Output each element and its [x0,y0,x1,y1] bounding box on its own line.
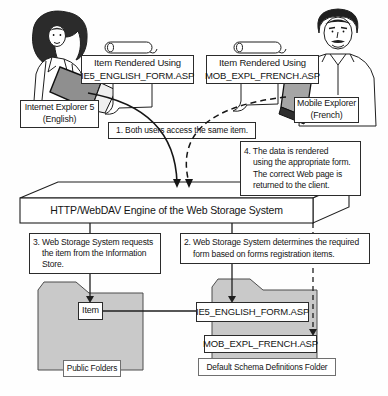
form-filename: IE5_ENGLISH_FORM.ASP [196,306,309,319]
client-name: Mobile Explorer [297,98,356,110]
step-text: Store. [33,259,157,270]
engine-title: HTTP/WebDAV Engine of the Web Storage Sy… [50,204,283,218]
diagram-base-art [0,0,388,396]
step-text: 2. Web Storage System determines the req… [184,237,366,248]
schema-folder-caption: Default Schema Definitions Folder [198,358,336,376]
label-line: Item Rendered Using [94,57,181,70]
man-eye-left [332,31,334,33]
english-form-box: IE5_ENGLISH_FORM.ASP [196,302,309,322]
folder-caption: Public Folders [67,363,117,374]
form-filename: MOB_EXPL_FRENCH.ASP [205,70,320,83]
scroll-roll-end [237,43,243,51]
public-folders-caption: Public Folders [63,360,121,377]
man-eye-right [343,31,345,33]
step-text: 3. Web Storage System requests [33,237,157,248]
woman-eye-left [53,34,55,36]
item-label: Item [82,305,99,317]
french-form-box: MOB_EXPL_FRENCH.ASP [204,335,317,353]
client-language: (English) [43,114,76,126]
step-text: 1. Both users access the same item. [116,125,248,136]
label-line: Item Rendered Using [219,57,306,70]
step-text: 4. The data is rendered [244,146,357,157]
step-text: the item from the Information [33,248,157,259]
step-text: returned to the client. [244,180,357,191]
step-4-callout: 4. The data is rendered using the approp… [240,141,361,196]
woman-eye-right [60,34,62,36]
folder-caption: Default Schema Definitions Folder [207,362,328,373]
step-2-callout: 2. Web Storage System determines the req… [180,233,370,264]
left-client-label: Internet Explorer 5 (English) [20,100,99,128]
scroll-roll-end [108,43,114,51]
step-text: form based on forms registration items. [184,249,366,260]
client-name: Internet Explorer 5 [25,102,95,114]
step-text: The correct Web page is [244,169,357,180]
right-client-label: Mobile Explorer (French) [294,97,359,123]
right-rendered-using-label: Item Rendered Using MOB_EXPL_FRENCH.ASP [206,55,319,84]
step-1-callout: 1. Both users access the same item. [108,122,256,139]
left-rendered-using-label: Item Rendered Using IE5_ENGLISH_FORM.ASP [81,55,194,84]
client-language: (French) [310,110,342,122]
form-filename: IE5_ENGLISH_FORM.ASP [81,70,194,83]
item-box: Item [78,302,103,320]
scroll-page [233,83,278,111]
engine-label: HTTP/WebDAV Engine of the Web Storage Sy… [20,199,313,222]
diagram-canvas: Item Rendered Using IE5_ENGLISH_FORM.ASP… [0,0,388,396]
step-text: using the appropriate form. [244,157,357,168]
step-3-callout: 3. Web Storage System requests the item … [29,233,161,274]
form-filename: MOB_EXPL_FRENCH.ASP [203,338,318,351]
